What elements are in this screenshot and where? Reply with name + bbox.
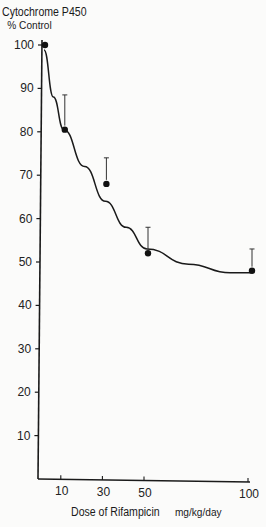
y-tick-label: 100: [14, 38, 34, 52]
y-tick-label: 30: [18, 342, 32, 356]
x-axis-label: Dose of Rifampicin mg/kg/day: [71, 505, 222, 519]
y-tick-label: 10: [17, 429, 31, 443]
y-axis-ticks: 102030405060708090100: [14, 38, 42, 443]
chart-plot-area: 102030405060708090100 103050100: [0, 0, 266, 527]
x-tick-label: 100: [239, 487, 259, 501]
y-tick-label: 90: [20, 81, 34, 95]
x-tick-label: 10: [55, 484, 69, 498]
y-tick-label: 60: [19, 212, 33, 226]
x-tick-label: 50: [138, 486, 152, 500]
data-point: [103, 181, 109, 187]
y-tick-label: 20: [17, 385, 31, 399]
x-axis-title: Dose of Rifampicin: [71, 505, 160, 519]
y-tick-label: 70: [19, 168, 33, 182]
y-tick-label: 50: [19, 255, 33, 269]
axes: [38, 40, 250, 482]
y-axis-line: [38, 40, 42, 479]
data-point: [249, 267, 255, 273]
data-point: [145, 250, 151, 256]
y-tick-label: 40: [18, 298, 32, 312]
data-points: [42, 42, 255, 274]
x-axis-unit: mg/kg/day: [175, 506, 222, 518]
y-tick-label: 80: [20, 125, 34, 139]
data-point: [62, 126, 68, 132]
data-point: [42, 42, 48, 48]
x-tick-label: 30: [97, 485, 111, 499]
